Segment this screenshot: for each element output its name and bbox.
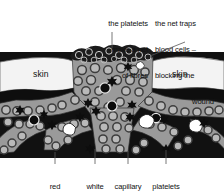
annotation-line: wound: [155, 98, 214, 107]
annotation-line: make a net: [60, 46, 148, 55]
annotation-line: the platelets: [60, 20, 148, 29]
annotation-line: the net traps: [155, 20, 224, 29]
skin-label-right: skin: [172, 69, 188, 79]
annotation-line: blood cells –: [155, 46, 224, 55]
platelet-net-annotation: the platelets make a net of fibres: [60, 3, 148, 98]
blood-clot-diagram: the platelets make a net of fibres the n…: [0, 0, 224, 196]
red-blood-cell-label: red blood cell: [33, 166, 77, 196]
label-line: red: [33, 183, 77, 192]
label-line: platelets: [142, 183, 190, 192]
net-traps-annotation: the net traps blood cells – blocking the…: [155, 3, 224, 123]
annotation-line: of fibres: [60, 72, 148, 81]
skin-label-left: skin: [33, 69, 49, 79]
platelets-label: platelets: [142, 166, 190, 196]
annotation-line: blocking the: [155, 72, 224, 81]
